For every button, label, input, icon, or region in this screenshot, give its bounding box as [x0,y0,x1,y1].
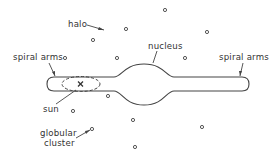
galaxy-diagram: halo spiral arms nucleus spiral arms sun… [0,0,279,160]
spiral-arms-right-label: spiral arms [219,52,269,62]
nucleus-label: nucleus [148,41,183,51]
sun-label: sun [43,104,59,114]
globular-cluster-dot [133,145,136,148]
spiral-arms-left-arrowhead-icon [52,71,55,76]
nucleus-leader-line [153,51,157,63]
globular-cluster-dot [205,30,208,33]
halo-label: halo [68,19,87,29]
globular-cluster-dot [163,8,166,11]
globular-cluster-label-line2: cluster [44,138,75,148]
globular-cluster-dot [124,27,127,30]
arrowheads [52,27,242,134]
globular-cluster-dot [131,118,134,121]
halo-arrowhead-icon [98,27,104,30]
sun-marker-icon [78,82,83,87]
globular-cluster-dot [183,56,186,59]
globular-cluster-dot [200,125,203,128]
globular-cluster-dot [91,38,94,41]
globular-cluster-dot [106,94,109,97]
globular-cluster-dot [63,56,66,59]
sun-leader-line [56,90,76,104]
globular-cluster-dot [90,127,93,130]
globular-cluster-dot [71,109,74,112]
spiral-arms-left-label: spiral arms [13,52,63,62]
galactic-disk-outline [47,64,249,105]
globular-cluster-arrowhead-icon [85,130,90,134]
globular-cluster-label-line1: globular [40,128,77,138]
globular-clusters [63,8,208,148]
globular-cluster-dot [115,56,118,59]
